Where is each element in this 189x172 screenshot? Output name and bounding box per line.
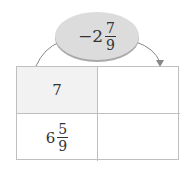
- operator-fraction: 7 9: [105, 21, 116, 52]
- number-table: 7 6 5 9: [16, 66, 179, 160]
- cell-r1-right[interactable]: [98, 67, 180, 114]
- operator-whole: 2: [92, 26, 103, 46]
- fraction: 5 9: [57, 122, 68, 153]
- cell-r2-right[interactable]: [98, 114, 180, 161]
- cell-r2-left: 6 5 9: [17, 114, 98, 161]
- operator-sign: −: [78, 26, 92, 46]
- operator-oval: − 2 7 9: [55, 12, 139, 60]
- cell-r1-left: 7: [17, 67, 98, 114]
